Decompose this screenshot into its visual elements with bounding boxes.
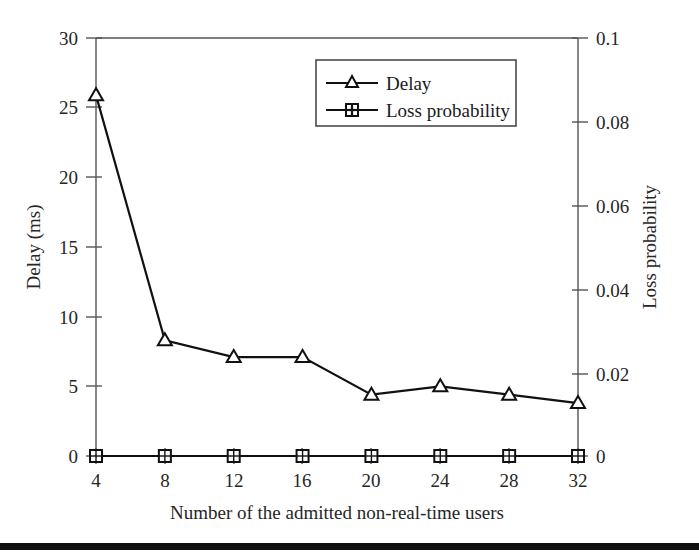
left-axis-tick-labels: 30 25 20 15 10 5 0 [59,28,78,467]
left-tick-label: 20 [59,167,78,188]
left-tick-label: 15 [59,237,78,258]
page-footer-band [0,543,699,550]
x-tick-label: 8 [160,470,170,491]
legend-label-loss-probability: Loss probability [386,100,511,121]
data-series-layer [89,88,585,462]
y-axis-title: Delay (ms) [23,205,45,290]
right-axis-tick-labels: 0.1 0.08 0.06 0.04 0.02 0 [596,28,630,467]
right-tick-label: 0 [596,446,606,467]
left-tick-label: 5 [69,376,79,397]
x-axis-title: Number of the admitted non-real-time use… [170,502,504,523]
chart-figure: 30 25 20 15 10 5 0 0.1 0.08 0.06 0.04 0.… [0,0,699,556]
right-tick-label: 0.1 [596,28,620,49]
x-tick-label: 4 [91,470,101,491]
left-tick-label: 30 [59,28,78,49]
triangle-marker [158,333,172,345]
right-tick-label: 0.08 [596,112,629,133]
x-tick-label: 12 [225,470,244,491]
x-tick-label: 28 [500,470,519,491]
triangle-marker [89,88,103,100]
left-tick-label: 25 [59,97,78,118]
x-tick-label: 16 [293,470,312,491]
x-axis-tick-labels: 4 8 12 16 20 24 28 32 [91,470,587,491]
x-tick-label: 24 [431,470,451,491]
chart-canvas: 30 25 20 15 10 5 0 0.1 0.08 0.06 0.04 0.… [0,0,699,556]
series-line [96,95,578,403]
x-tick-label: 32 [569,470,588,491]
right-tick-label: 0.06 [596,196,629,217]
left-tick-label: 0 [69,446,79,467]
left-tick-label: 10 [59,307,78,328]
legend-label-delay: Delay [386,73,432,94]
legend: Delay Loss probability [316,60,516,126]
right-tick-label: 0.04 [596,280,630,301]
right-tick-label: 0.02 [596,364,629,385]
right-axis-ticks [572,38,588,456]
series-loss-probability [90,450,584,462]
series-delay [89,88,585,408]
y2-axis-title: Loss probability [639,184,660,309]
triangle-marker [433,379,447,391]
x-tick-label: 20 [362,470,381,491]
